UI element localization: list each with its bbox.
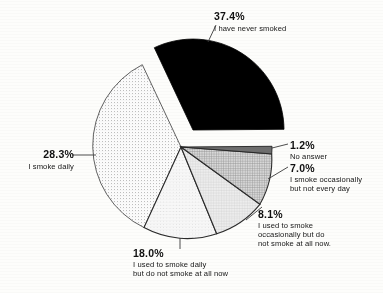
label-no-answer: 1.2% No answer bbox=[290, 139, 327, 161]
label-never-smoked-percent: 37.4% bbox=[214, 10, 286, 22]
pie-slice-never-smoked[interactable] bbox=[154, 39, 284, 130]
label-no-answer-percent: 1.2% bbox=[290, 139, 327, 151]
label-i-smoke-daily-text: I smoke daily bbox=[18, 162, 74, 171]
label-never-smoked-text: I have never smoked bbox=[214, 24, 286, 33]
label-smoke-occasionally-text: I smoke occasionally but not every day bbox=[290, 175, 362, 193]
label-used-to-smoke-daily-text: I used to smoke daily but do not smoke a… bbox=[133, 260, 228, 278]
label-smoke-occasionally-percent: 7.0% bbox=[290, 162, 362, 174]
label-used-to-smoke-daily-percent: 18.0% bbox=[133, 247, 228, 259]
pie-chart: 37.4% I have never smoked 28.3% I smoke … bbox=[0, 0, 383, 293]
label-i-smoke-daily: 28.3% I smoke daily bbox=[18, 148, 74, 171]
label-i-smoke-daily-percent: 28.3% bbox=[18, 148, 74, 160]
label-used-to-smoke-occasionally-text: I used to smoke occasionally but do not … bbox=[258, 221, 331, 249]
label-used-to-smoke-occasionally-percent: 8.1% bbox=[258, 208, 331, 220]
leader-line-no-answer bbox=[272, 144, 288, 148]
label-no-answer-text: No answer bbox=[290, 152, 327, 161]
label-used-to-smoke-occasionally: 8.1% I used to smoke occasionally but do… bbox=[258, 208, 331, 249]
label-never-smoked: 37.4% I have never smoked bbox=[214, 10, 286, 33]
pie-slice-never-smoked-group[interactable] bbox=[154, 39, 284, 130]
label-used-to-smoke-daily: 18.0% I used to smoke daily but do not s… bbox=[133, 247, 228, 278]
label-smoke-occasionally: 7.0% I smoke occasionally but not every … bbox=[290, 162, 362, 193]
